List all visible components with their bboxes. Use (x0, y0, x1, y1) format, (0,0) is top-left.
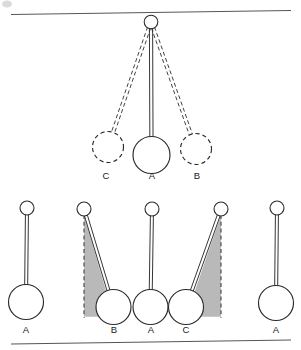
rod-line-2 (28, 214, 29, 287)
pivot (214, 202, 228, 216)
bottom-label-2: B (111, 324, 118, 335)
bottom-label-4: C (182, 324, 189, 335)
rod (275, 214, 279, 288)
rod-line-1 (275, 214, 276, 288)
rod-line-2 (154, 27, 193, 136)
pendulum-diagram-canvas: CABABACA (0, 0, 301, 350)
bob (133, 290, 168, 325)
rod-line-1 (149, 215, 150, 292)
pendulum-figure: CABABACA (0, 0, 301, 350)
top-bob-b (181, 134, 212, 165)
rod-line-1 (25, 214, 26, 287)
bottom-panel: ABACA (9, 201, 294, 344)
pivot (20, 201, 34, 215)
top-rod-a (149, 28, 153, 139)
top-label-a: A (149, 170, 156, 181)
pendulum-3-a: A (133, 202, 168, 335)
top-label-c: C (102, 170, 109, 181)
top-ceiling-rule (11, 11, 291, 15)
rod (149, 215, 153, 292)
rod-line-2 (152, 215, 153, 292)
pivot (270, 201, 284, 215)
bottom-label-3: A (148, 324, 155, 335)
pendulum-2-b: B (77, 202, 131, 335)
bottom-label-5: A (273, 324, 280, 335)
top-label-b: B (194, 170, 201, 181)
bob (96, 290, 131, 325)
top-pivot (144, 15, 158, 29)
bottom-label-1: A (23, 324, 30, 335)
pendulum-5-a: A (259, 201, 294, 335)
pivot (145, 202, 159, 216)
bob (169, 290, 204, 325)
rod-line-2 (278, 214, 279, 288)
top-bob-c (93, 132, 124, 163)
top-bob-a (133, 137, 170, 174)
pendulum-4-c: C (169, 202, 229, 335)
top-rod-c (111, 27, 151, 135)
rod-line-2 (114, 28, 151, 135)
bob (259, 286, 294, 321)
top-rod-b (151, 27, 193, 137)
bob (9, 285, 44, 320)
rod (25, 214, 29, 287)
rod-line-1 (111, 27, 148, 134)
pendulum-1-a: A (9, 201, 44, 335)
top-panel: CAB (11, 11, 291, 182)
rod-line-1 (151, 28, 190, 137)
pivot (77, 202, 91, 216)
scan-smudge (2, 1, 12, 8)
bottom-floor-rule (11, 340, 291, 344)
